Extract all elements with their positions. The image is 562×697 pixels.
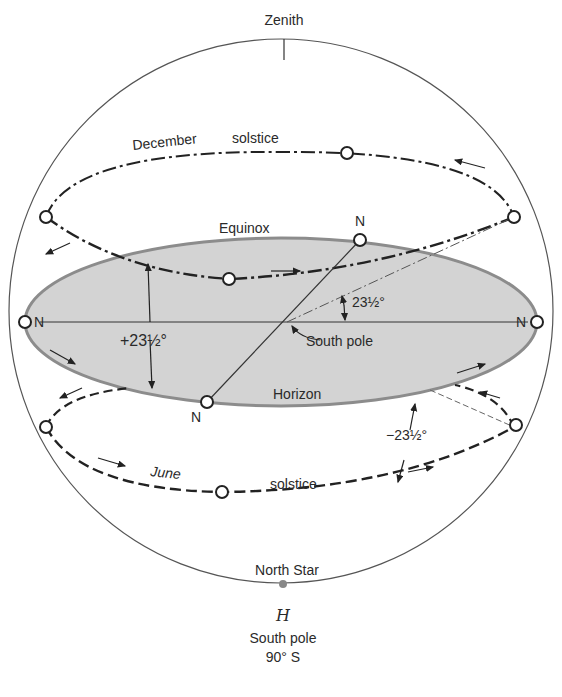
june-right-marker [510, 419, 522, 431]
motion-arrow [455, 160, 485, 168]
caption-line1: South pole [250, 630, 317, 646]
equinox-label: Equinox [219, 220, 270, 236]
figure-letter: H [275, 606, 291, 625]
motion-arrow [46, 243, 70, 254]
north-right-label: N [516, 314, 526, 330]
north-star-dot [279, 580, 287, 588]
celestial-sphere-diagram: Zenith December solstice Equinox N N N N… [0, 0, 562, 697]
north-right-marker [531, 316, 543, 328]
december-label: December [132, 130, 198, 153]
caption-line2: 90° S [266, 649, 300, 665]
zenith-label: Zenith [265, 12, 304, 28]
december-solstice-label: solstice [232, 130, 279, 146]
december-solstice-path [46, 152, 514, 217]
june-solstice-marker [216, 486, 228, 498]
angle-center-label: 23½° [352, 294, 385, 310]
june-solstice-label: solstice [270, 476, 317, 492]
south-pole-label: South pole [306, 333, 373, 349]
north-bottom-label: N [191, 409, 201, 425]
dec-solstice-marker [341, 147, 353, 159]
north-star-label: North Star [255, 562, 319, 578]
motion-arrow [98, 458, 125, 466]
dec-left-marker [40, 211, 52, 223]
june-solstice-back-right [455, 385, 514, 427]
june-solstice-back [46, 388, 130, 427]
angle-minus-label: −23½° [386, 427, 427, 443]
june-label: June [149, 463, 182, 482]
north-bottom-marker [201, 396, 213, 408]
north-top-marker [354, 234, 366, 246]
north-top-label: N [355, 213, 365, 229]
june-left-marker [40, 421, 52, 433]
angle-plus-label: +23½° [120, 332, 167, 349]
motion-arrow [60, 388, 82, 398]
equinox-marker [223, 273, 235, 285]
north-left-marker [19, 316, 31, 328]
horizon-label: Horizon [273, 386, 321, 402]
dec-right-marker [508, 211, 520, 223]
north-left-label: N [34, 314, 44, 330]
